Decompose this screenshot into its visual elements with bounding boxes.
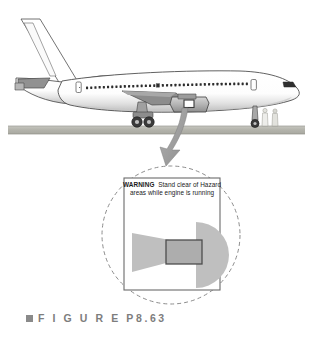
vertical-stabilizer [21, 19, 78, 84]
warning-label: WARNING [123, 181, 155, 188]
engine-body [166, 240, 202, 264]
figure-root: WARNING Stand clear of Hazard areas whil… [0, 0, 313, 343]
placard-warning-text: WARNING Stand clear of Hazard areas whil… [122, 181, 222, 197]
ground-crew-figures [262, 108, 278, 126]
aft-door [76, 82, 81, 93]
aircraft [15, 19, 299, 128]
figure-caption: F I G U R E P8.63 [26, 312, 167, 324]
square-bullet-icon [26, 315, 33, 322]
figure-illustration [0, 0, 313, 343]
ground-crew-person-1 [262, 108, 268, 126]
ground-crew-person-2 [272, 109, 278, 126]
callout-arrow [160, 108, 188, 166]
figure-caption-text: F I G U R E P8.63 [38, 312, 167, 324]
nacelle-placard-marker [184, 100, 194, 108]
nose-landing-gear [251, 106, 259, 128]
engine-nacelle [170, 94, 209, 112]
tarmac-ground-band [8, 126, 305, 134]
cockpit-windshield [283, 82, 296, 87]
forward-door [251, 80, 256, 91]
overwing-exit [156, 84, 159, 88]
